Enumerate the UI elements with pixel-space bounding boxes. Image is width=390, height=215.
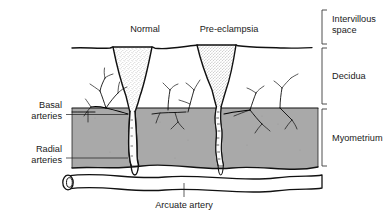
- anatomical-diagram: Basal arteries Radial arteries Normal Pr…: [0, 0, 390, 215]
- normal-funnel-fill: [113, 47, 152, 112]
- intervillous-space-bracket: [322, 10, 327, 44]
- radial-arteries-label-line2: arteries: [31, 155, 62, 165]
- radial-arteries-label-line1: Radial: [36, 144, 62, 154]
- basal-arteries-label-line2: arteries: [31, 111, 62, 121]
- arcuate-artery-vessel: [63, 174, 322, 192]
- uterine-surface-line: [72, 45, 312, 49]
- myometrium-label: Myometrium: [332, 133, 383, 143]
- myometrium-fill: [72, 108, 318, 169]
- layer-bracket-group: Intervillous space Decidua Myometrium: [322, 10, 383, 166]
- normal-label: Normal: [130, 24, 160, 34]
- top-label-group: Normal Pre-eclampsia: [130, 24, 259, 34]
- intervillous-decidua-boundary: [72, 45, 312, 49]
- arcuate-artery-lumen-inner: [67, 178, 73, 188]
- arcuate-artery-label: Arcuate artery: [155, 200, 213, 210]
- basal-arteries-label-line1: Basal: [39, 100, 62, 110]
- myometrium-layer: [72, 108, 318, 169]
- myometrium-bracket: [322, 109, 327, 166]
- figure-canvas: Basal arteries Radial arteries Normal Pr…: [0, 0, 390, 215]
- decidua-bracket: [322, 48, 327, 104]
- arcuate-artery-body: [68, 174, 322, 192]
- preeclampsia-label: Pre-eclampsia: [200, 24, 260, 34]
- decidua-label: Decidua: [332, 71, 367, 81]
- intervillous-space-label-line1: Intervillous: [332, 14, 376, 24]
- intervillous-space-label-line2: space: [332, 25, 357, 35]
